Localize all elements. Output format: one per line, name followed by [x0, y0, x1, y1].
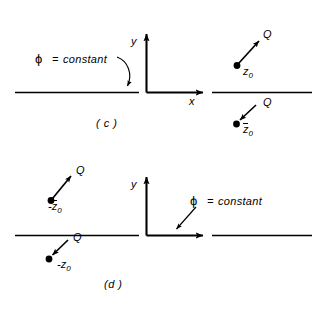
coord-subscript-upper-c: 0 [249, 71, 253, 80]
phi-constant-value-d: constant [218, 196, 262, 207]
phi-equals-sign-d: = [207, 196, 214, 207]
coord-label-upper-d: -z0 [48, 201, 62, 215]
phi-constant-leader-d [177, 207, 197, 229]
phi-symbol-c: ϕ [35, 52, 42, 65]
charge-dot-upper-c [234, 62, 241, 69]
coord-label-lower-d: -z0 [57, 259, 71, 273]
charge-dot-lower-d [46, 256, 53, 263]
coord-symbol-lower-c: z [243, 123, 249, 135]
coord-label-lower-c: z0 [243, 124, 253, 138]
charge-arrow-lower-c [240, 105, 256, 120]
coord-symbol-upper-d: z [52, 200, 58, 212]
coord-subscript-upper-d: 0 [57, 206, 61, 215]
charge-dot-lower-c [233, 121, 240, 128]
y-axis-label-c: y [131, 36, 137, 47]
charge-label-upper-c: Q [263, 29, 272, 40]
phi-symbol-d: ϕ [190, 194, 197, 207]
charge-label-lower-d: Q [73, 232, 82, 243]
coord-subscript-lower-c: 0 [249, 129, 253, 138]
charge-arrow-upper-d [53, 176, 72, 199]
panel-caption-d: (d ) [104, 279, 123, 290]
panel-d-line-art [15, 176, 312, 262]
figure-line-art [0, 0, 330, 311]
charge-label-upper-d: Q [76, 165, 85, 176]
y-axis-label-d: y [131, 179, 137, 190]
phi-constant-leader-c [117, 57, 130, 86]
phi-equals-sign-c: = [52, 54, 59, 65]
charge-label-lower-c: Q [263, 97, 272, 108]
coord-subscript-lower-d: 0 [66, 264, 70, 273]
coord-label-upper-c: z0 [243, 66, 253, 80]
charge-arrow-upper-c [239, 41, 260, 64]
panel-caption-c: ( c ) [96, 118, 117, 129]
panel-c-line-art [15, 34, 312, 127]
figure-container: ϕ = constant y x Q z0 Q z0 ( c ) Q -z0 Q… [0, 0, 330, 311]
x-axis-label-c: x [189, 96, 195, 107]
charge-arrow-lower-d [53, 240, 69, 255]
phi-constant-value-c: constant [63, 54, 107, 65]
